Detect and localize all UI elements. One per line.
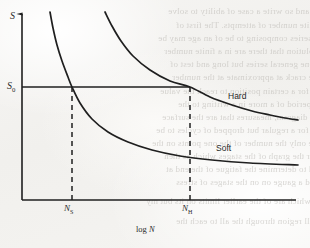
hard-curve-label: Hard [228,91,246,101]
s0-label-subscript: 0 [12,86,15,93]
figure-container: soil, and so write a case of ability to … [0,0,310,248]
ns-label-subscript: S [70,209,73,215]
reference-lines-group [22,87,190,200]
x-axis-title-prefix: log [136,224,149,234]
soft-curve [50,12,298,165]
s0-axis-label: S0 [7,80,15,93]
x-axis-title: log N [136,224,155,234]
y-axis-label: S [10,10,15,21]
hard-curve [105,12,298,120]
axes-group [22,14,296,200]
ns-tick-label: NS [64,203,73,215]
nh-label-subscript: H [188,209,192,215]
x-axis-title-variable: N [149,224,155,234]
soft-curve-label: Soft [216,143,231,153]
curves-group [50,12,298,165]
plot-svg [0,0,310,248]
nh-tick-label: NH [182,203,192,215]
